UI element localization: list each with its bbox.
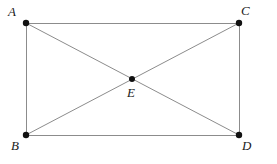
point-label-a: A: [8, 5, 16, 18]
point-c: [236, 20, 242, 26]
point-a: [23, 20, 29, 26]
figure-svg: [0, 0, 277, 164]
point-b: [23, 132, 29, 138]
point-label-d: D: [242, 139, 251, 152]
point-e: [129, 76, 135, 82]
point-label-e: E: [127, 86, 135, 99]
geometry-figure: A C B D E: [0, 0, 277, 164]
point-label-c: C: [241, 4, 250, 17]
point-label-b: B: [11, 139, 19, 152]
